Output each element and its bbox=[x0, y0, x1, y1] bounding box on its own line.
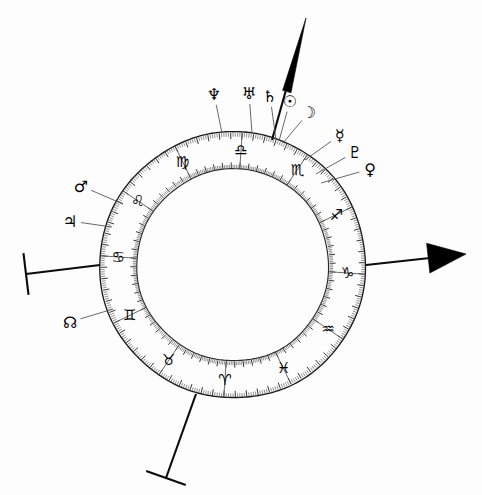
planet-glyph-pluto[interactable]: ♇ bbox=[348, 143, 362, 162]
pointer-line-mercury bbox=[305, 141, 331, 160]
degree-tick-inner bbox=[209, 168, 210, 171]
chart-axis-ic[interactable] bbox=[146, 394, 196, 485]
degree-tick-inner bbox=[316, 315, 319, 317]
degree-tick-outer bbox=[105, 233, 111, 235]
degree-tick-inner bbox=[311, 322, 314, 324]
degree-tick-outer bbox=[113, 319, 117, 321]
degree-tick-outer bbox=[283, 383, 285, 387]
degree-tick-outer bbox=[293, 378, 295, 382]
degree-tick-inner bbox=[309, 203, 312, 205]
zodiac-glyph-virgo[interactable]: ♍ bbox=[176, 153, 189, 171]
axis-arrowhead bbox=[283, 18, 306, 93]
degree-tick-inner bbox=[141, 226, 144, 227]
planet-glyph-mars[interactable]: ♂ bbox=[74, 177, 88, 196]
degree-tick-inner bbox=[307, 327, 310, 329]
degree-tick-inner bbox=[188, 351, 190, 354]
zodiac-glyph-scorpio[interactable]: ♏ bbox=[291, 161, 305, 179]
planet-glyph-jupiter[interactable]: ♃ bbox=[63, 212, 77, 231]
zodiac-glyph-sagittarius[interactable]: ♐ bbox=[330, 206, 343, 224]
degree-tick-inner bbox=[134, 278, 138, 279]
degree-tick-inner bbox=[131, 275, 137, 276]
degree-tick-inner bbox=[154, 203, 157, 205]
degree-tick-outer bbox=[324, 171, 327, 174]
degree-tick-outer bbox=[342, 195, 345, 197]
zodiac-glyph-aquarius[interactable]: ♒ bbox=[322, 320, 335, 338]
degree-tick-inner bbox=[222, 163, 223, 169]
degree-tick-outer bbox=[113, 209, 117, 211]
degree-tick-outer bbox=[344, 199, 347, 201]
degree-tick-outer bbox=[312, 366, 314, 369]
degree-tick-inner bbox=[269, 355, 270, 358]
planet-glyph-moon[interactable]: ☽ bbox=[302, 103, 316, 122]
degree-tick-inner bbox=[195, 355, 196, 358]
degree-ticks-layer bbox=[101, 133, 366, 398]
degree-tick-inner bbox=[141, 304, 144, 305]
degree-tick-outer bbox=[109, 220, 113, 221]
planet-glyph-sun[interactable]: ☉ bbox=[283, 92, 297, 111]
degree-tick-inner bbox=[302, 332, 306, 336]
degree-tick-outer bbox=[151, 366, 153, 369]
degree-tick-inner bbox=[251, 167, 252, 171]
degree-tick-inner bbox=[253, 359, 254, 363]
degree-tick-outer bbox=[135, 176, 138, 179]
degree-tick-inner bbox=[153, 200, 158, 204]
zodiac-glyph-aries[interactable]: ♈ bbox=[218, 371, 231, 389]
degree-tick-outer bbox=[355, 224, 359, 225]
degree-tick-outer bbox=[291, 147, 293, 151]
zodiac-glyph-libra[interactable]: ♎ bbox=[234, 141, 247, 159]
degree-tick-outer bbox=[122, 193, 125, 195]
degree-tick-outer bbox=[356, 303, 360, 304]
zodiac-glyph-leo[interactable]: ♌ bbox=[131, 192, 144, 210]
planet-glyph-venus[interactable]: ♀ bbox=[364, 160, 376, 179]
degree-tick-inner bbox=[191, 353, 193, 356]
pointer-line-venus bbox=[321, 172, 359, 183]
degree-tick-inner bbox=[205, 166, 207, 172]
planet-glyph-uranus[interactable]: ♅ bbox=[242, 84, 256, 103]
degree-tick-outer bbox=[108, 307, 112, 308]
chart-axis-asc[interactable] bbox=[23, 253, 100, 295]
degree-tick-outer bbox=[344, 329, 347, 331]
degree-tick-inner bbox=[313, 209, 316, 211]
degree-tick-inner bbox=[324, 232, 327, 233]
degree-tick-inner bbox=[204, 169, 205, 172]
degree-tick-inner bbox=[153, 205, 156, 207]
degree-tick-outer bbox=[188, 141, 189, 145]
degree-tick-inner bbox=[151, 208, 154, 210]
zodiac-glyph-taurus[interactable]: ♉ bbox=[162, 351, 175, 369]
degree-tick-inner bbox=[300, 334, 303, 337]
planet-glyph-saturn[interactable]: ♄ bbox=[263, 87, 277, 106]
degree-tick-outer bbox=[163, 374, 165, 377]
degree-tick-outer bbox=[103, 287, 107, 288]
zodiac-glyph-capricorn[interactable]: ♑ bbox=[341, 264, 354, 282]
degree-tick-inner bbox=[155, 326, 158, 328]
chart-axis-dsc[interactable] bbox=[366, 243, 466, 273]
degree-tick-inner bbox=[295, 188, 297, 191]
degree-tick-inner bbox=[264, 168, 266, 174]
degree-tick-inner bbox=[189, 352, 191, 355]
degree-tick-inner bbox=[212, 167, 213, 171]
degree-tick-inner bbox=[326, 237, 332, 239]
astrology-chart-canvas: ♈♉♊♋♌♍♎♏♐♑♒♓ ♆♅♄☉☽☿♇♀♂♃☊ bbox=[0, 0, 482, 495]
degree-tick-outer bbox=[118, 329, 121, 331]
degree-tick-outer bbox=[357, 285, 363, 286]
degree-tick-inner bbox=[329, 251, 333, 252]
planet-glyph-mercury[interactable]: ☿ bbox=[335, 126, 345, 145]
degree-tick-outer bbox=[171, 378, 173, 382]
degree-tick-outer bbox=[350, 211, 354, 213]
degree-tick-outer bbox=[351, 213, 355, 215]
degree-tick-inner bbox=[305, 330, 308, 332]
degree-tick-inner bbox=[135, 242, 139, 243]
zodiac-glyph-pisces[interactable]: ♓ bbox=[277, 359, 290, 377]
degree-tick-outer bbox=[341, 335, 344, 337]
degree-tick-outer bbox=[101, 278, 107, 279]
degree-tick-inner bbox=[160, 331, 163, 333]
zodiac-glyph-gemini[interactable]: ♊ bbox=[123, 306, 136, 324]
degree-tick-outer bbox=[143, 168, 146, 171]
zodiac-glyph-cancer[interactable]: ♋ bbox=[112, 248, 125, 266]
planet-glyph-north-node[interactable]: ☊ bbox=[63, 313, 77, 332]
degree-tick-inner bbox=[291, 342, 293, 345]
planet-glyph-neptune[interactable]: ♆ bbox=[207, 85, 221, 104]
degree-tick-inner bbox=[277, 176, 279, 179]
degree-tick-inner bbox=[145, 218, 148, 220]
degree-tick-inner bbox=[324, 231, 327, 232]
